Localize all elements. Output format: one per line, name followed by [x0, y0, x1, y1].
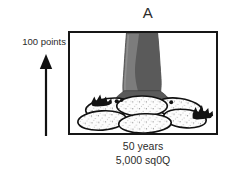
- caption-line-duration: 50 years: [68, 139, 218, 153]
- illustration-frame: [68, 31, 218, 135]
- up-arrow-icon: [38, 54, 54, 136]
- panel-letter: A: [130, 4, 166, 21]
- vertical-axis-group: 100 points: [8, 36, 66, 136]
- caption-line-area: 5,000 sq0Q: [68, 153, 218, 167]
- tree-trunk-on-boulders-illustration: [70, 33, 216, 133]
- axis-label: 100 points: [8, 36, 66, 47]
- caption-block: 50 years 5,000 sq0Q: [68, 139, 218, 167]
